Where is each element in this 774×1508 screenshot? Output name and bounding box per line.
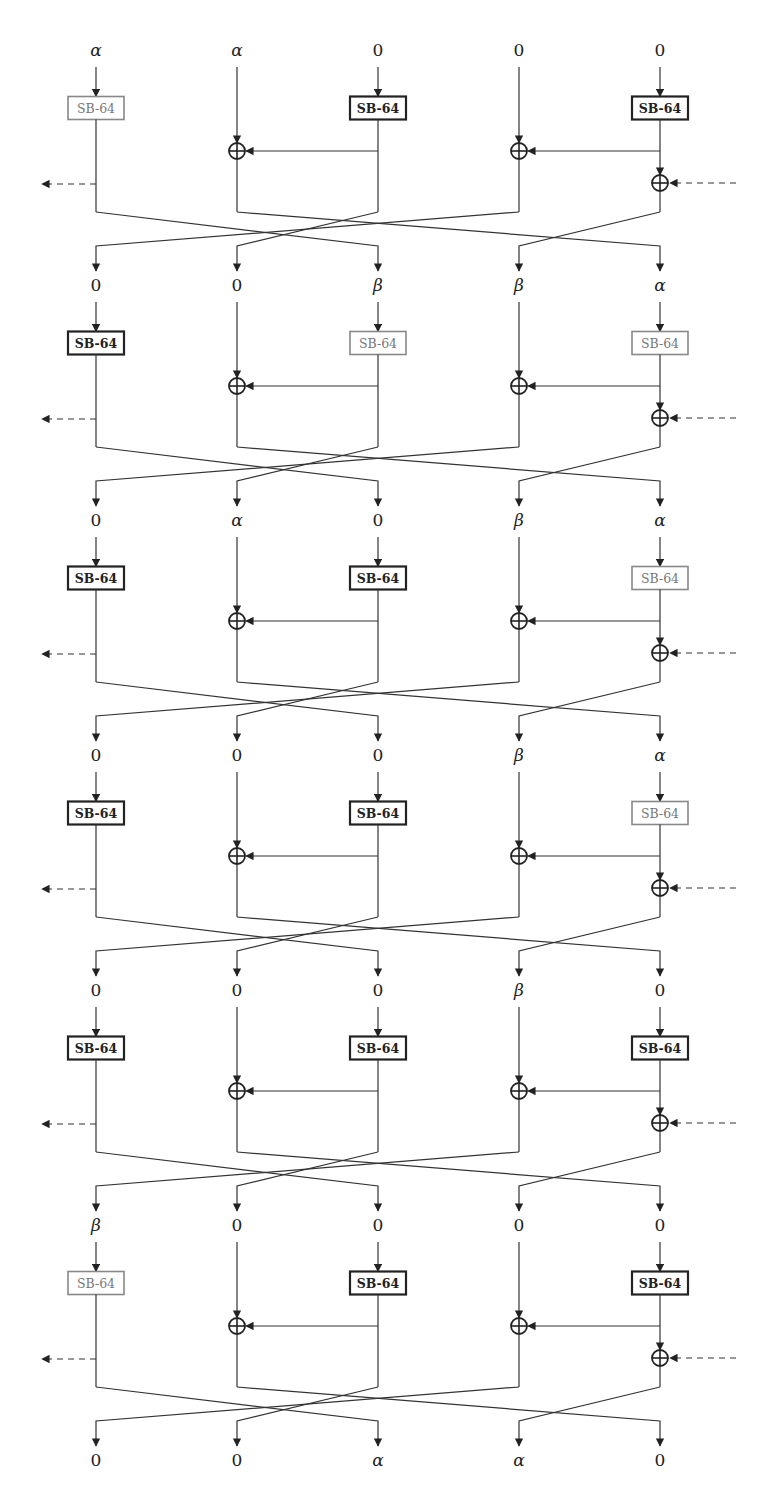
round-6-sbox-2: SB-64	[350, 1272, 406, 1295]
permutation-wire	[237, 917, 378, 976]
round-3-input-1: 0	[91, 510, 102, 530]
round-5-input-5: 0	[655, 980, 666, 1000]
round-2-input-5: α	[654, 275, 666, 295]
round-4-sbox-2: SB-64	[350, 802, 406, 825]
round-6-input-1: β	[90, 1215, 101, 1235]
round-6-input-5: 0	[655, 1215, 666, 1235]
sbox-label: SB-64	[639, 101, 682, 116]
round-4-input-5: α	[654, 745, 666, 765]
sbox-label: SB-64	[77, 1276, 115, 1291]
sbox-label: SB-64	[77, 101, 115, 116]
round-6-xor-col-2	[229, 1318, 245, 1334]
round-1-sbox-2: SB-64	[350, 97, 406, 120]
round-1-xor-key	[652, 175, 668, 191]
permutation-wire	[237, 212, 378, 271]
round-3-input-2: α	[231, 510, 243, 530]
round-6-input-4: 0	[514, 1215, 525, 1235]
round-3-xor-key	[652, 645, 668, 661]
round-3-input-3: 0	[373, 510, 384, 530]
permutation-wire	[519, 212, 660, 271]
permutation-wire	[237, 1387, 660, 1446]
output-3: α	[372, 1450, 384, 1470]
sbox-label: SB-64	[639, 1276, 682, 1291]
round-4-sbox-1: SB-64	[68, 802, 124, 825]
round-3-sbox-2: SB-64	[350, 567, 406, 590]
sbox-label: SB-64	[641, 571, 679, 586]
permutation-wire	[237, 682, 378, 741]
round-4-input-4: β	[513, 745, 524, 765]
round-2-input-1: 0	[91, 275, 102, 295]
round-4-input-1: 0	[91, 745, 102, 765]
permutation-wire	[96, 212, 519, 271]
round-5-input-3: 0	[373, 980, 384, 1000]
round-5-xor-col-2	[229, 1083, 245, 1099]
permutation-wire	[237, 682, 660, 741]
round-1-xor-col-4	[511, 143, 527, 159]
round-5-xor-key	[652, 1115, 668, 1131]
sbox-label: SB-64	[357, 1041, 400, 1056]
round-6-sbox-1: SB-64	[68, 1272, 124, 1295]
sbox-label: SB-64	[357, 571, 400, 586]
sbox-label: SB-64	[357, 806, 400, 821]
round-2-input-2: 0	[232, 275, 243, 295]
feistel-trail-diagram: αα000SB-64SB-64SB-6400ββαSB-64SB-64SB-64…	[0, 0, 774, 1508]
round-3-sbox-1: SB-64	[68, 567, 124, 590]
round-6-input-3: 0	[373, 1215, 384, 1235]
round-2-input-4: β	[513, 275, 524, 295]
round-2-sbox-2: SB-64	[350, 332, 406, 355]
sbox-label: SB-64	[641, 336, 679, 351]
round-1-sbox-1: SB-64	[68, 97, 124, 120]
round-2-xor-key	[652, 410, 668, 426]
permutation-wire	[96, 1152, 519, 1211]
permutation-wire	[519, 1152, 660, 1211]
round-2-xor-col-4	[511, 378, 527, 394]
output-2: 0	[232, 1450, 243, 1470]
round-6-input-2: 0	[232, 1215, 243, 1235]
sbox-label: SB-64	[75, 571, 118, 586]
sbox-label: SB-64	[75, 1041, 118, 1056]
round-3-input-4: β	[513, 510, 524, 530]
round-5-input-4: β	[513, 980, 524, 1000]
sbox-label: SB-64	[75, 336, 118, 351]
permutation-wire	[237, 447, 660, 506]
round-5-sbox-3: SB-64	[632, 1037, 688, 1060]
permutation-wire	[519, 1387, 660, 1446]
permutation-wire	[237, 447, 378, 506]
round-4-xor-key	[652, 880, 668, 896]
round-1-xor-col-2	[229, 143, 245, 159]
permutation-wire	[237, 917, 660, 976]
round-5-input-2: 0	[232, 980, 243, 1000]
round-1-input-4: 0	[514, 40, 525, 60]
permutation-wire	[96, 917, 519, 976]
permutation-wire	[519, 682, 660, 741]
round-4-xor-col-2	[229, 848, 245, 864]
round-3-xor-col-2	[229, 613, 245, 629]
output-1: 0	[91, 1450, 102, 1470]
round-2-input-3: β	[372, 275, 383, 295]
round-3-sbox-3: SB-64	[632, 567, 688, 590]
round-4-input-2: 0	[232, 745, 243, 765]
round-6-xor-key	[652, 1350, 668, 1366]
permutation-wire	[519, 447, 660, 506]
sbox-label: SB-64	[359, 336, 397, 351]
permutation-wire	[237, 1152, 660, 1211]
round-5-input-1: 0	[91, 980, 102, 1000]
sbox-label: SB-64	[357, 1276, 400, 1291]
permutation-wire	[96, 1387, 519, 1446]
permutation-wire	[96, 682, 519, 741]
permutation-wire	[519, 917, 660, 976]
permutation-wire	[237, 1152, 378, 1211]
round-1-input-1: α	[90, 40, 102, 60]
round-6-sbox-3: SB-64	[632, 1272, 688, 1295]
round-5-sbox-1: SB-64	[68, 1037, 124, 1060]
round-4-sbox-3: SB-64	[632, 802, 688, 825]
sbox-label: SB-64	[639, 1041, 682, 1056]
round-1-input-3: 0	[373, 40, 384, 60]
round-2-sbox-3: SB-64	[632, 332, 688, 355]
round-5-sbox-2: SB-64	[350, 1037, 406, 1060]
permutation-wire	[237, 1387, 378, 1446]
round-1-input-5: 0	[655, 40, 666, 60]
round-4-input-3: 0	[373, 745, 384, 765]
round-4-xor-col-4	[511, 848, 527, 864]
permutation-wire	[237, 212, 660, 271]
